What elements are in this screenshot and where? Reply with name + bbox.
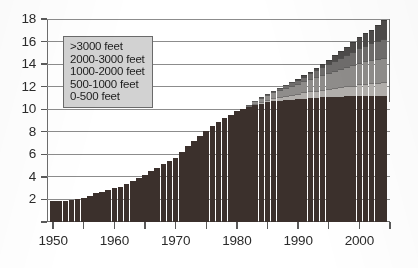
bar-1951 xyxy=(56,201,62,222)
bar-segment-1993-0-500-feet xyxy=(314,98,320,222)
bar-1980 xyxy=(234,111,240,222)
bar-segment-2002-0-500-feet xyxy=(369,96,375,222)
bar-1987 xyxy=(277,88,283,222)
bar-1998 xyxy=(344,47,350,222)
bar-segment-1974-0-500-feet xyxy=(197,136,203,222)
bar-segment-1969-0-500-feet xyxy=(167,161,173,222)
bar-segment-1983-0-500-feet xyxy=(252,105,258,222)
bar-segment-1978-0-500-feet xyxy=(222,118,228,222)
bar-segment-1956-0-500-feet xyxy=(87,196,93,222)
bar-segment-2003-2000-3000-feet xyxy=(375,41,381,59)
bar-1997 xyxy=(338,51,344,222)
bar-1976 xyxy=(210,126,216,222)
bar-segment-1992-1000-2000-feet xyxy=(308,79,314,91)
bar-2002 xyxy=(369,30,375,222)
bar-segment-2000-0-500-feet xyxy=(357,96,363,222)
bar-segment-1973-0-500-feet xyxy=(191,141,197,222)
x-tick-1985 xyxy=(267,222,268,229)
x-axis-label-1980: 1980 xyxy=(214,233,260,248)
x-axis-label-1950: 1950 xyxy=(30,233,76,248)
bar-segment-2000-2000-3000-feet xyxy=(357,48,363,63)
bar-1962 xyxy=(124,184,130,222)
legend-item-0: >3000 feet xyxy=(70,40,145,53)
bar-1957 xyxy=(93,193,99,222)
bar-segment-2003-0-500-feet xyxy=(375,96,381,222)
legend-item-4: 0-500 feet xyxy=(70,90,145,103)
bar-1996 xyxy=(332,55,338,222)
bar-segment-1995-1000-2000-feet xyxy=(326,73,332,89)
bar-1966 xyxy=(148,171,154,222)
bar-segment-1955-0-500-feet xyxy=(81,198,87,222)
bar-1970 xyxy=(173,158,179,222)
bar-segment-1985-0-500-feet xyxy=(265,102,271,222)
bar-segment-1997-0-500-feet xyxy=(338,97,344,222)
bar-segment-1982-0-500-feet xyxy=(246,107,252,222)
bar-segment-2000-1000-2000-feet xyxy=(357,63,363,84)
bar-segment-1999-1000-2000-feet xyxy=(350,65,356,85)
bar-segment-1995-0-500-feet xyxy=(326,97,332,222)
bar-segment-1997-1000-2000-feet xyxy=(338,69,344,87)
bar-segment-1967-0-500-feet xyxy=(154,168,160,222)
bar-1990 xyxy=(295,79,301,222)
bar-segment-1984-0-500-feet xyxy=(259,104,265,222)
bar-1968 xyxy=(161,164,167,222)
bar-segment-1997-2000-3000-feet xyxy=(338,58,344,69)
bar-segment-1991-0-500-feet xyxy=(301,99,307,222)
bar-1984 xyxy=(259,97,265,222)
bar-segment-1950-0-500-feet xyxy=(50,201,56,222)
bar-segment-1995-500-1000-feet xyxy=(326,89,332,97)
bar-segment-1965-0-500-feet xyxy=(142,175,148,222)
bar-segment-1999--3000-feet xyxy=(350,42,356,52)
bar-segment-1957-0-500-feet xyxy=(93,193,99,222)
bar-segment-1999-500-1000-feet xyxy=(350,86,356,97)
x-axis-label-2000: 2000 xyxy=(336,233,382,248)
y-axis-label-4: 4 xyxy=(6,169,36,184)
bar-segment-1996-500-1000-feet xyxy=(332,88,338,97)
bar-1981 xyxy=(240,109,246,222)
bar-segment-1979-0-500-feet xyxy=(228,115,234,222)
bar-segment-1998-0-500-feet xyxy=(344,96,350,222)
bar-segment-1964-0-500-feet xyxy=(136,178,142,222)
bar-segment-1993-1000-2000-feet xyxy=(314,77,320,91)
bar-1978 xyxy=(222,118,228,222)
bar-2004 xyxy=(381,20,387,222)
legend-item-1: 2000-3000 feet xyxy=(70,53,145,66)
x-tick-1995 xyxy=(328,222,329,229)
bar-segment-1960-0-500-feet xyxy=(112,188,118,222)
bar-1995 xyxy=(326,60,332,222)
bar-segment-1988-1000-2000-feet xyxy=(283,88,289,96)
bar-segment-1966-0-500-feet xyxy=(148,171,154,222)
bar-1960 xyxy=(112,188,118,222)
y-axis-label-10: 10 xyxy=(6,101,36,116)
bar-1972 xyxy=(185,146,191,222)
bar-segment-1990-1000-2000-feet xyxy=(295,84,301,94)
x-tick-1975 xyxy=(206,222,207,229)
x-tick-1965 xyxy=(144,222,145,229)
y-axis-label-12: 12 xyxy=(6,79,36,94)
bar-1965 xyxy=(142,175,148,222)
bar-segment-1959-0-500-feet xyxy=(105,190,111,222)
bar-1974 xyxy=(197,136,203,222)
bar-segment-1996-1000-2000-feet xyxy=(332,71,338,88)
bar-1950 xyxy=(50,201,56,222)
chart-legend: >3000 feet2000-3000 feet1000-2000 feet50… xyxy=(63,36,153,108)
bar-1988 xyxy=(283,85,289,222)
bar-1961 xyxy=(118,187,124,222)
bar-segment-1977-0-500-feet xyxy=(216,122,222,222)
bar-1982 xyxy=(246,105,252,222)
x-tick-1970 xyxy=(175,222,176,229)
bar-segment-1998-1000-2000-feet xyxy=(344,67,350,86)
bar-1973 xyxy=(191,141,197,222)
bar-1955 xyxy=(81,198,87,222)
bar-segment-1998--3000-feet xyxy=(344,47,350,55)
bar-segment-1987-0-500-feet xyxy=(277,101,283,222)
x-tick-1990 xyxy=(297,222,298,229)
x-axis-label-1960: 1960 xyxy=(91,233,137,248)
x-tick-2005 xyxy=(389,222,390,229)
bar-segment-2004-2000-3000-feet xyxy=(381,39,387,58)
bar-segment-1989-1000-2000-feet xyxy=(289,86,295,95)
bar-segment-1989-0-500-feet xyxy=(289,100,295,222)
bar-1989 xyxy=(289,82,295,222)
bar-1954 xyxy=(75,199,81,222)
chart-container: 24681012141618 195019601970198019902000 … xyxy=(0,0,418,268)
